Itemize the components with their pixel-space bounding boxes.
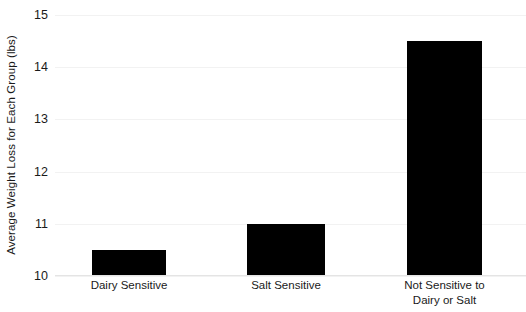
x-axis-line: [55, 275, 526, 276]
x-axis-label-line: Not Sensitive to: [404, 279, 485, 291]
x-axis-label-line: Salt Sensitive: [251, 279, 321, 291]
y-tick-label: 13: [4, 113, 48, 126]
y-axis-tick-labels: 101112131415: [0, 15, 48, 276]
x-axis-label: Dairy Sensitive: [49, 278, 209, 293]
bar: [407, 41, 482, 276]
y-tick-label: 10: [4, 270, 48, 283]
x-axis-category-labels: Dairy SensitiveSalt SensitiveNot Sensiti…: [55, 278, 526, 312]
gridline-10: [55, 276, 526, 277]
x-axis-label-line: Dairy Sensitive: [91, 279, 168, 291]
bar: [92, 250, 166, 276]
y-tick-label: 15: [4, 9, 48, 22]
gridline-15: [55, 15, 526, 16]
y-tick-label: 11: [4, 218, 48, 231]
plot-area: [55, 15, 526, 276]
y-tick-label: 12: [4, 165, 48, 178]
x-axis-label: Salt Sensitive: [206, 278, 366, 293]
bar: [247, 224, 325, 276]
bar-chart: Average Weight Loss for Each Group (lbs)…: [0, 0, 526, 312]
y-tick-label: 14: [4, 61, 48, 74]
x-axis-label-line: Dairy or Salt: [365, 293, 525, 308]
chart-title: [55, 0, 526, 1]
x-axis-label: Not Sensitive toDairy or Salt: [365, 278, 525, 308]
